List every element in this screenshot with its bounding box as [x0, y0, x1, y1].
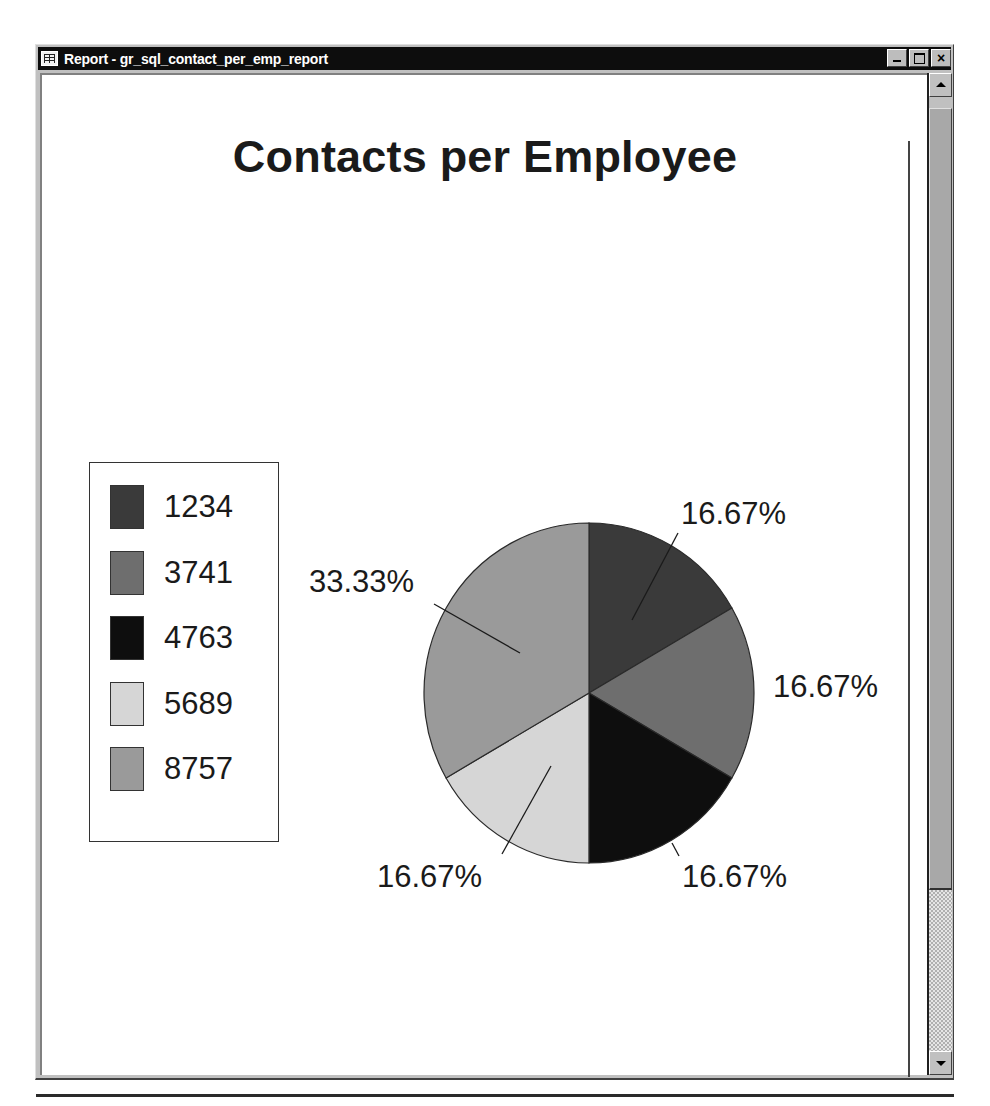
slice-label-8757: 33.33% — [309, 564, 414, 599]
slice-label-3741: 16.67% — [773, 669, 878, 704]
slice-label-5689: 16.67% — [377, 859, 482, 894]
slice-label-4763: 16.67% — [682, 859, 787, 894]
slice-label-1234: 16.67% — [681, 496, 786, 531]
pie-slices — [424, 523, 754, 863]
pie-chart: 16.67% 16.67% 16.67% 16.67% 33.33% — [0, 0, 990, 1106]
